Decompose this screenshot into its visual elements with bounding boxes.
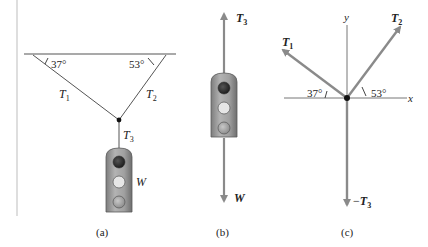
- panel-c: [283, 25, 407, 205]
- angle-arc-right-c: [362, 87, 366, 96]
- angle-arc-left-c: [325, 91, 327, 98]
- angle-label-37-c: 37°: [307, 88, 322, 99]
- angle-label-53-a: 53°: [129, 59, 144, 70]
- axis-label-x: x: [408, 93, 413, 104]
- traffic-light-a: [106, 148, 132, 212]
- caption-c: (c): [341, 227, 353, 238]
- angle-arc-left: [45, 58, 48, 64]
- caption-b: (b): [216, 227, 229, 238]
- angle-label-37-a: 37°: [51, 59, 66, 70]
- panel-a: [24, 54, 176, 212]
- rope-t1: [33, 55, 119, 120]
- label-t2-c: T2: [391, 12, 402, 24]
- label-w-b: W: [234, 192, 245, 204]
- label-t1-c: T1: [282, 36, 293, 48]
- label-t1-a: T1: [59, 88, 70, 100]
- free-body-diagram-figure: 37° 53° T1 T2 T3 W (a) T3 W (b) y x T1 T…: [0, 0, 428, 247]
- knot-point: [117, 118, 122, 123]
- angle-label-53-c: 53°: [371, 88, 386, 99]
- caption-a: (a): [96, 227, 108, 238]
- origin-point: [344, 95, 350, 101]
- traffic-light-b: [211, 73, 237, 137]
- label-t3-b: T3: [236, 12, 247, 24]
- panel-b: [211, 14, 237, 201]
- label-t3-a: T3: [123, 129, 134, 141]
- axis-label-y: y: [344, 12, 349, 23]
- label-w-a: W: [136, 176, 146, 188]
- figure-graphics: [0, 0, 428, 247]
- label-t2-a: T2: [146, 88, 157, 100]
- label-neg-t3-c: −T3: [353, 195, 371, 207]
- angle-arc-right: [148, 58, 154, 65]
